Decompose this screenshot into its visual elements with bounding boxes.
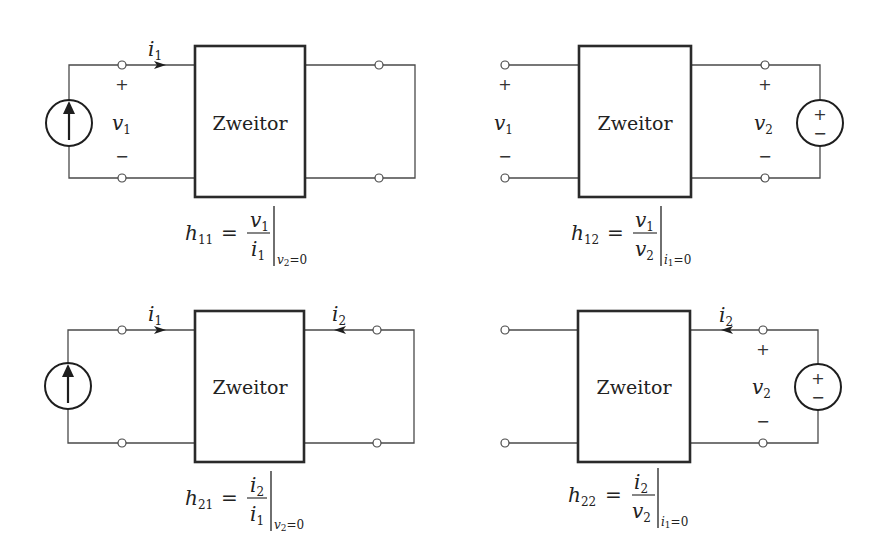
terminal xyxy=(501,61,509,69)
current-label-i2: i2 xyxy=(719,303,733,329)
svg-text:=: = xyxy=(605,483,622,507)
two-port-label: Zweitor xyxy=(213,376,289,398)
panel-h21: Zweitor i1 i2 h21 = i2 i1 v2=0 xyxy=(45,302,414,533)
terminal xyxy=(118,439,126,447)
plus-sign: + xyxy=(756,340,769,359)
minus-sign: − xyxy=(756,412,769,431)
svg-text:i1: i1 xyxy=(251,237,265,263)
terminal xyxy=(761,61,769,69)
current-label-i1: i1 xyxy=(148,302,162,328)
terminal xyxy=(375,61,383,69)
formula-h22: h22 = i2 v2 i1=0 xyxy=(568,468,688,530)
voltage-label-v1: v1 xyxy=(112,111,131,137)
terminal xyxy=(375,174,383,182)
svg-text:i2: i2 xyxy=(634,470,648,496)
svg-text:v2=0: v2=0 xyxy=(274,518,304,533)
two-port-label: Zweitor xyxy=(598,112,674,134)
svg-text:−: − xyxy=(813,124,826,143)
plus-sign: + xyxy=(115,75,128,94)
voltage-source-plus-minus-icon: + − xyxy=(795,364,841,410)
panel-h22: + − Zweitor i2 + v2 − h22 = i2 v2 i1=0 xyxy=(501,303,841,530)
svg-text:+: + xyxy=(811,369,824,388)
svg-text:−: − xyxy=(811,388,824,407)
voltage-label-v2: v2 xyxy=(754,111,773,137)
svg-text:h11: h11 xyxy=(185,221,213,247)
current-label-i2: i2 xyxy=(332,302,346,328)
formula-h21: h21 = i2 i1 v2=0 xyxy=(185,471,304,533)
minus-sign: − xyxy=(115,147,128,166)
svg-text:h21: h21 xyxy=(185,486,213,512)
plus-sign: + xyxy=(498,75,511,94)
svg-text:h12: h12 xyxy=(571,221,599,247)
h-parameter-diagram: Zweitor i1 + v1 − h11 = v1 i1 v2=0 + − xyxy=(0,0,888,546)
terminal xyxy=(761,174,769,182)
svg-text:v1: v1 xyxy=(635,208,654,234)
terminal xyxy=(118,174,126,182)
two-port-label: Zweitor xyxy=(213,112,289,134)
minus-sign: − xyxy=(498,147,511,166)
plus-sign: + xyxy=(758,75,771,94)
svg-text:i1: i1 xyxy=(250,502,264,528)
terminal xyxy=(501,326,509,334)
terminal xyxy=(118,326,126,334)
terminal xyxy=(373,326,381,334)
terminal xyxy=(759,326,767,334)
terminal xyxy=(501,439,509,447)
svg-text:i1=0: i1=0 xyxy=(661,515,688,530)
svg-text:v2: v2 xyxy=(632,499,651,525)
svg-text:=: = xyxy=(221,221,238,245)
svg-text:v2: v2 xyxy=(635,237,654,263)
terminal xyxy=(373,439,381,447)
panel-h11: Zweitor i1 + v1 − h11 = v1 i1 v2=0 xyxy=(46,37,415,268)
current-label-i1: i1 xyxy=(148,37,162,63)
panel-h12: + − Zweitor + v1 − + v2 − h12 = v1 v2 i1… xyxy=(494,46,843,268)
two-port-label: Zweitor xyxy=(597,376,673,398)
formula-h11: h11 = v1 i1 v2=0 xyxy=(185,206,307,268)
current-source-up-arrow-icon xyxy=(45,363,91,409)
voltage-source-plus-minus-icon: + − xyxy=(797,100,843,146)
svg-text:i2: i2 xyxy=(250,473,264,499)
formula-h12: h12 = v1 v2 i1=0 xyxy=(571,206,691,268)
current-source-up-arrow-icon xyxy=(46,100,92,146)
svg-text:=: = xyxy=(221,486,238,510)
svg-text:v1: v1 xyxy=(250,208,269,234)
svg-text:v2=0: v2=0 xyxy=(277,253,307,268)
minus-sign: − xyxy=(758,147,771,166)
terminal xyxy=(501,174,509,182)
voltage-label-v2: v2 xyxy=(752,375,771,401)
svg-text:h22: h22 xyxy=(568,483,596,509)
svg-text:=: = xyxy=(607,221,624,245)
svg-text:+: + xyxy=(813,105,826,124)
terminal xyxy=(759,439,767,447)
voltage-label-v1: v1 xyxy=(494,111,513,137)
svg-text:i1=0: i1=0 xyxy=(664,253,691,268)
terminal xyxy=(118,61,126,69)
